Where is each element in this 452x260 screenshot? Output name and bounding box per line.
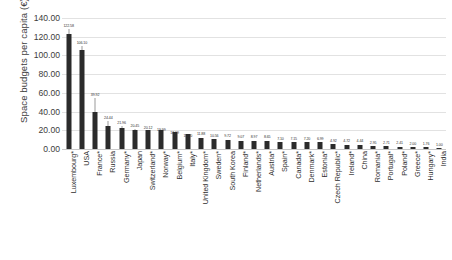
bar[interactable] [410, 147, 415, 149]
label-leader-line [95, 98, 96, 112]
x-axis-label-slot: Russia [102, 151, 115, 259]
plot-area: 122.58106.1039.9224.4421.9620.4520.1219.… [62, 18, 446, 149]
bar-group: 7.10 [274, 18, 287, 149]
label-leader-line [81, 46, 82, 50]
y-axis-tick-label: 120.00 [14, 32, 60, 42]
bar-group: 8.65 [261, 18, 274, 149]
x-axis-label-slot: Greece* [406, 151, 419, 259]
x-axis-label-slot: Estonia* [314, 151, 327, 259]
bar[interactable] [212, 139, 217, 149]
bar[interactable] [437, 148, 442, 149]
bar-group: 7.20 [300, 18, 313, 149]
bar[interactable] [265, 141, 270, 149]
x-axis-label-slot: Luxembourg* [62, 151, 75, 259]
bar[interactable] [344, 145, 349, 149]
x-axis-label-slot: Romania* [367, 151, 380, 259]
label-leader-line [134, 129, 135, 130]
bar-value-label: 4.92 [330, 139, 337, 143]
x-axis-label-slot: China [353, 151, 366, 259]
x-axis-label-slot: Hungary* [420, 151, 433, 259]
x-axis-label-slot: USA [75, 151, 88, 259]
x-axis-label-slot: Austria* [261, 151, 274, 259]
bar[interactable] [424, 147, 429, 149]
bar-value-label: 1.00 [436, 143, 443, 147]
bar-group: 1.00 [433, 18, 446, 149]
bar[interactable] [357, 145, 362, 149]
bar[interactable] [132, 130, 137, 149]
bar-group: 1.76 [420, 18, 433, 149]
x-axis-label-slot: Japan [128, 151, 141, 259]
bar[interactable] [146, 130, 151, 149]
bar-group: 7.15 [287, 18, 300, 149]
bar-value-label: 18.19 [170, 131, 179, 135]
bar-group: 9.07 [234, 18, 247, 149]
bar-group: 11.88 [194, 18, 207, 149]
bar[interactable] [331, 144, 336, 149]
x-axis-label-slot: United Kingdom* [194, 151, 207, 259]
bar[interactable] [225, 140, 230, 149]
x-axis-label-slot: Denmark* [300, 151, 313, 259]
y-axis-tick-label: 80.00 [14, 69, 60, 79]
x-axis-label-slot: France* [88, 151, 101, 259]
bar[interactable] [159, 130, 164, 149]
bar-value-label: 122.58 [63, 24, 73, 28]
x-axis-label-slot: Italy* [181, 151, 194, 259]
y-axis-tick-label: 100.00 [14, 50, 60, 60]
bar-group: 122.58 [62, 18, 75, 149]
bar-value-label: 39.92 [91, 93, 100, 97]
bar-value-label: 9.72 [224, 134, 231, 138]
bar-group: 9.72 [221, 18, 234, 149]
bar-group: 24.44 [102, 18, 115, 149]
x-axis-label-slot: Poland* [393, 151, 406, 259]
x-axis-label-slot: Finland* [234, 151, 247, 259]
bar-value-label: 7.20 [304, 137, 311, 141]
bar[interactable] [66, 34, 71, 149]
bar-value-label: 10.56 [210, 134, 219, 138]
bar-value-label: 2.71 [383, 141, 390, 145]
bar-group: 2.95 [367, 18, 380, 149]
x-axis-label-slot: South Korea [221, 151, 234, 259]
label-leader-line [108, 121, 109, 126]
bar-group: 15.70 [181, 18, 194, 149]
bar[interactable] [384, 146, 389, 149]
x-axis-label-slot: Portugal* [380, 151, 393, 259]
bar-value-label: 19.99 [157, 128, 166, 132]
bar[interactable] [397, 147, 402, 149]
bar-value-label: 1.76 [423, 142, 430, 146]
bar-value-label: 21.96 [117, 121, 126, 125]
x-axis-category-label: India [439, 151, 448, 166]
bar[interactable] [199, 138, 204, 149]
y-axis-tick-labels: 140.00120.00100.0080.0060.0040.0020.000.… [14, 18, 60, 149]
bar[interactable] [251, 141, 256, 149]
bar[interactable] [278, 142, 283, 149]
bar[interactable] [304, 142, 309, 149]
bar-value-label: 20.45 [131, 124, 140, 128]
bars-layer: 122.58106.1039.9224.4421.9620.4520.1219.… [62, 18, 446, 149]
x-axis-label-slot: Germany* [115, 151, 128, 259]
bar-group: 2.00 [406, 18, 419, 149]
bar[interactable] [238, 141, 243, 149]
bar[interactable] [93, 112, 98, 149]
x-axis-label-slot: Czech Republic* [327, 151, 340, 259]
bar-value-label: 2.95 [370, 141, 377, 145]
bar-group: 10.56 [208, 18, 221, 149]
x-axis-label-slot: Norway* [155, 151, 168, 259]
bar[interactable] [291, 142, 296, 149]
bar-group: 106.10 [75, 18, 88, 149]
bar[interactable] [79, 50, 84, 149]
bar-group: 20.12 [141, 18, 154, 149]
bar-value-label: 7.10 [277, 137, 284, 141]
bar[interactable] [119, 128, 124, 149]
y-axis-tick-label: 0.00 [14, 144, 60, 154]
bar[interactable] [371, 146, 376, 149]
bar-group: 6.99 [314, 18, 327, 149]
bar-group: 20.45 [128, 18, 141, 149]
y-axis-tick-label: 60.00 [14, 88, 60, 98]
bar[interactable] [106, 126, 111, 149]
bar[interactable] [318, 142, 323, 149]
bar-value-label: 8.65 [264, 135, 271, 139]
y-axis-tick-label: 20.00 [14, 125, 60, 135]
bar-group: 4.92 [327, 18, 340, 149]
bar-group: 18.19 [168, 18, 181, 149]
bar-value-label: 15.70 [184, 134, 193, 138]
